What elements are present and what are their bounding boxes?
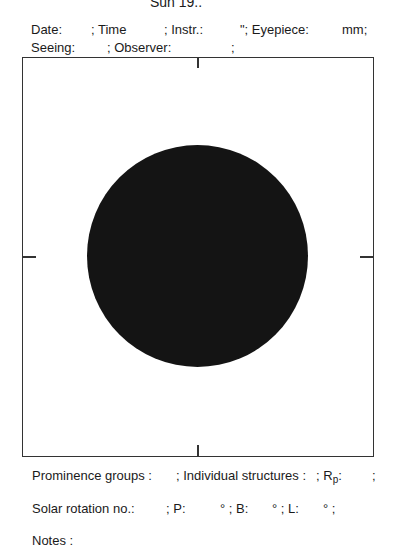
right-tick — [360, 256, 373, 258]
l-angle-end: ° ; — [323, 501, 335, 516]
eyepiece-label: "; Eyepiece: — [240, 22, 309, 37]
time-label: ; Time — [91, 22, 126, 37]
left-tick — [23, 256, 36, 258]
bottom-tick — [197, 445, 199, 456]
seeing-label: Seeing: — [31, 40, 75, 55]
rp-label: ; Rp: — [316, 468, 342, 483]
observer-label: ; Observer: — [107, 40, 171, 55]
b-angle-label: ° ; B: — [220, 501, 248, 516]
rp-end-separator: ; — [372, 468, 376, 483]
mm-label: mm; — [342, 22, 367, 37]
date-label: Date: — [31, 22, 62, 37]
individual-structures-label: ; Individual structures : — [176, 468, 306, 483]
solar-rotation-label: Solar rotation no.: — [32, 501, 135, 516]
instrument-label: ; Instr.: — [164, 22, 203, 37]
p-angle-label: ; P: — [166, 501, 186, 516]
notes-label: Notes : — [32, 533, 73, 548]
observer-end-separator: ; — [231, 40, 235, 55]
top-tick — [197, 58, 199, 68]
form-title: Sun 19.. — [150, 0, 202, 10]
l-angle-label: ° ; L: — [272, 501, 299, 516]
sun-disk — [87, 145, 308, 367]
prominence-groups-label: Prominence groups : — [32, 468, 152, 483]
